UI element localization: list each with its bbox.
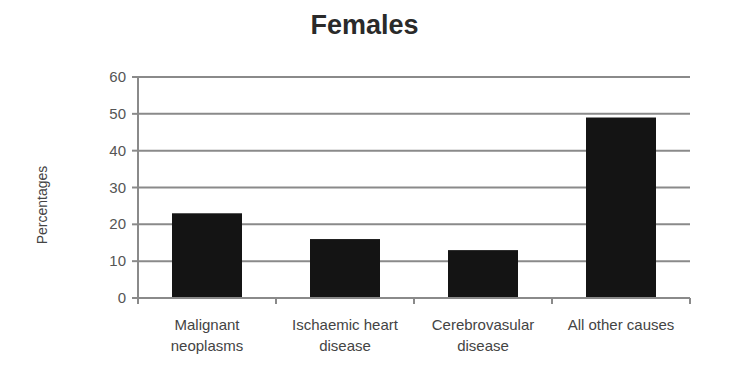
y-tick-label: 0: [118, 289, 126, 306]
y-tick-label: 50: [109, 105, 126, 122]
y-tick-label: 60: [109, 68, 126, 85]
x-category-label: Cerebrovasulardisease: [414, 314, 552, 356]
bar-ischaemic-heart-disease: [310, 239, 380, 298]
x-category-label-line: disease: [276, 335, 414, 356]
x-category-label: Ischaemic heartdisease: [276, 314, 414, 356]
y-tick-label: 30: [109, 179, 126, 196]
x-category-label-line: [552, 335, 690, 356]
x-category-label-line: disease: [414, 335, 552, 356]
x-category-label-line: neoplasms: [138, 335, 276, 356]
x-category-label-line: All other causes: [552, 314, 690, 335]
x-category-label-line: Malignant: [138, 314, 276, 335]
bar-malignant-neoplasms: [172, 213, 242, 298]
bar-all-other-causes: [586, 118, 656, 298]
y-tick-label: 10: [109, 252, 126, 269]
y-tick-label: 40: [109, 142, 126, 159]
x-category-label-line: Cerebrovasular: [414, 314, 552, 335]
x-category-label-line: Ischaemic heart: [276, 314, 414, 335]
bar-cerebrovasular-disease: [448, 250, 518, 298]
x-category-label: Malignantneoplasms: [138, 314, 276, 356]
x-category-label: All other causes: [552, 314, 690, 356]
y-tick-label: 20: [109, 215, 126, 232]
